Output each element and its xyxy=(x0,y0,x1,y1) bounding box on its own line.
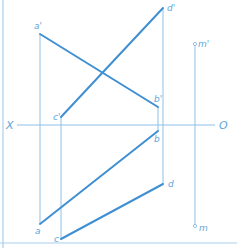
label-c: c xyxy=(54,234,59,244)
point-m-marker xyxy=(193,224,196,227)
diagram-canvas: X O a' d' m' b' c' b d a c m xyxy=(0,0,237,248)
label-a-prime: a' xyxy=(34,21,42,31)
label-b: b xyxy=(154,134,160,144)
label-m: m xyxy=(199,223,208,233)
line-c-d xyxy=(61,184,163,239)
label-m-prime: m' xyxy=(198,39,209,49)
label-d: d xyxy=(168,179,174,189)
label-c-prime: c' xyxy=(53,112,60,122)
projection-diagram: X O a' d' m' b' c' b d a c m xyxy=(0,0,237,248)
point-m-prime-marker xyxy=(193,42,196,45)
label-d-prime: d' xyxy=(167,3,175,13)
line-a-b xyxy=(40,131,158,224)
line-a-prime-b-prime xyxy=(40,34,158,107)
axis-label-x: X xyxy=(5,119,14,132)
label-b-prime: b' xyxy=(154,94,162,104)
label-a: a xyxy=(35,226,41,236)
axis-label-o: O xyxy=(219,119,228,132)
